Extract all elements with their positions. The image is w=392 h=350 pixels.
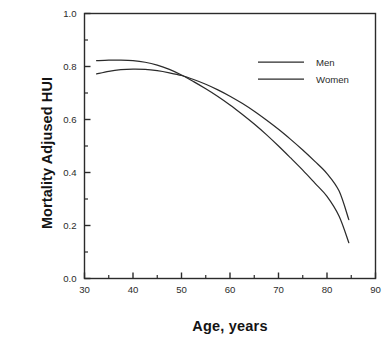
y-tick-label: 0.8 — [63, 61, 76, 72]
plot-area: 0.00.20.40.60.81.0 30405060708090 MenWom… — [0, 0, 392, 350]
plot-frame — [85, 14, 376, 279]
x-tick-label: 30 — [79, 284, 90, 295]
x-tick-label: 70 — [273, 284, 284, 295]
y-tick-label: 0.4 — [63, 167, 77, 178]
chart-figure: Mortality Adjused HUI Age, years 0.00.20… — [0, 0, 392, 350]
series-line-women — [97, 69, 349, 220]
x-tick-label: 50 — [176, 284, 187, 295]
x-tick-label: 60 — [225, 284, 236, 295]
x-tick-label: 40 — [128, 284, 139, 295]
y-tick-label: 1.0 — [63, 8, 76, 19]
y-axis-ticks: 0.00.20.40.60.81.0 — [63, 8, 90, 284]
y-tick-label: 0.2 — [63, 220, 76, 231]
y-tick-label: 0.0 — [63, 273, 76, 284]
x-tick-label: 90 — [370, 284, 381, 295]
y-tick-label: 0.6 — [63, 114, 76, 125]
series-line-men — [97, 60, 349, 243]
chart-legend: MenWomen — [258, 57, 349, 85]
x-axis-ticks: 30405060708090 — [79, 273, 381, 295]
x-tick-label: 80 — [322, 284, 333, 295]
legend-label-women: Women — [316, 74, 349, 85]
data-series-layer — [97, 60, 349, 243]
legend-label-men: Men — [316, 57, 335, 68]
